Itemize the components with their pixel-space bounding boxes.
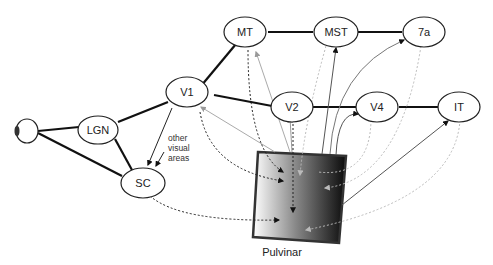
node-sc: SC <box>121 168 165 198</box>
svg-text:V4: V4 <box>370 101 383 113</box>
eye-icon <box>15 119 39 143</box>
svg-text:MT: MT <box>237 26 253 38</box>
svg-text:7a: 7a <box>418 26 431 38</box>
pulvinar-connectivity-diagram: LGN SC V1 MT MST 7a V2 V4 IT other visua… <box>0 0 493 265</box>
node-7a: 7a <box>403 17 445 47</box>
node-lgn: LGN <box>78 116 118 144</box>
node-v1: V1 <box>166 77 208 107</box>
svg-text:other: other <box>168 133 188 143</box>
node-mst: MST <box>314 17 358 47</box>
other-visual-areas-label: other visual areas <box>168 133 190 163</box>
svg-text:V2: V2 <box>285 101 298 113</box>
node-it: IT <box>438 92 480 122</box>
svg-text:IT: IT <box>454 101 464 113</box>
svg-text:SC: SC <box>135 177 150 189</box>
pulvinar-block <box>253 152 346 243</box>
svg-text:visual: visual <box>168 143 190 153</box>
svg-text:areas: areas <box>168 153 189 163</box>
node-v4: V4 <box>356 92 398 122</box>
svg-text:MST: MST <box>324 26 348 38</box>
pulvinar-label: Pulvinar <box>262 246 302 258</box>
svg-text:V1: V1 <box>180 86 193 98</box>
node-mt: MT <box>224 17 266 47</box>
node-v2: V2 <box>271 92 313 122</box>
svg-text:LGN: LGN <box>87 124 110 136</box>
